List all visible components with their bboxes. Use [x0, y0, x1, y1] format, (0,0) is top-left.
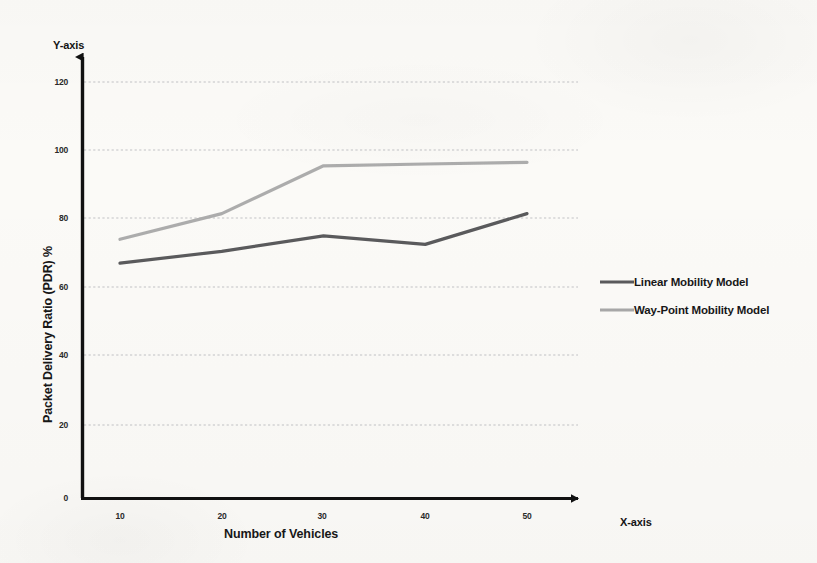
x-tick-10: 10 [103, 512, 137, 521]
y-tick-80: 80 [34, 214, 68, 223]
x-tick-40: 40 [408, 512, 442, 521]
y-tick-0: 0 [34, 494, 68, 503]
x-tick-20: 20 [205, 512, 239, 521]
series-line-linear-mobility-model [120, 214, 527, 264]
x-axis-name-label: X-axis [620, 517, 652, 528]
x-axis-title: Number of Vehicles [224, 528, 338, 541]
y-axis-title: Packet Delivery Ratio (PDR) % [42, 246, 55, 423]
y-tick-100: 100 [34, 146, 68, 155]
x-tick-30: 30 [305, 512, 339, 521]
chart-page: Y-axis X-axis 120 100 80 60 40 20 0 10 2… [0, 0, 817, 563]
x-tick-50: 50 [510, 512, 544, 521]
legend-label-linear-mobility-model: Linear Mobility Model [634, 276, 748, 288]
series-line-way-point-mobility-model [120, 162, 527, 239]
gridlines [84, 82, 578, 425]
y-tick-120: 120 [34, 78, 68, 87]
legend-label-way-point-mobility-model: Way-Point Mobility Model [634, 304, 769, 316]
y-axis-name-label: Y-axis [53, 40, 84, 51]
